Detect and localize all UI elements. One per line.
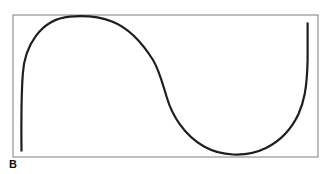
frame-border xyxy=(13,15,318,157)
curve-diagram xyxy=(0,0,331,174)
s-curve xyxy=(21,16,307,154)
panel-label: B xyxy=(9,158,17,171)
figure-panel: B xyxy=(0,0,331,174)
